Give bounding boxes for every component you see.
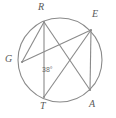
vertex-point-A: [89, 89, 91, 91]
chord-GE: [22, 30, 91, 62]
vertex-label-G: G: [5, 54, 12, 64]
angle-measure-label-T: 38°: [42, 66, 53, 73]
vertex-label-A: A: [89, 99, 95, 109]
vertex-point-E: [90, 29, 92, 31]
vertex-point-T: [43, 96, 45, 98]
vertex-label-E: E: [92, 9, 98, 19]
diagram-canvas: [0, 0, 116, 118]
vertex-point-R: [43, 21, 45, 23]
vertex-point-G: [21, 61, 23, 63]
chord-RA: [44, 22, 90, 90]
chord-EA: [90, 30, 91, 90]
vertex-label-T: T: [40, 101, 46, 111]
chord-TE: [44, 30, 91, 97]
vertex-label-R: R: [38, 2, 44, 12]
geometry-diagram: R E G T A 38°: [0, 0, 116, 118]
